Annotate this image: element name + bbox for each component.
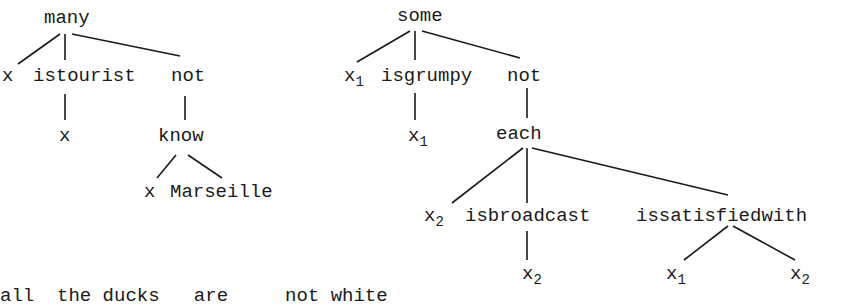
node-many: many <box>44 8 90 28</box>
node-issat-arg-x1: x1 <box>666 264 686 284</box>
node-issatisfiedwith: issatisfiedwith <box>636 206 807 226</box>
node-isgrumpy-arg: x1 <box>408 126 428 146</box>
node-isbroadcast-arg: x2 <box>522 264 542 284</box>
node-var-x2: x2 <box>424 206 444 226</box>
node-istourist: istourist <box>33 66 136 86</box>
node-var-x1: x1 <box>344 66 364 86</box>
node-issat-arg-x2: x2 <box>790 264 810 284</box>
node-some: some <box>397 6 443 26</box>
node-not: not <box>171 66 205 86</box>
node-know: know <box>158 126 204 146</box>
node-not: not <box>507 66 541 86</box>
node-isgrumpy: isgrumpy <box>381 66 472 86</box>
node-each: each <box>496 124 542 144</box>
node-istourist-arg: x <box>59 126 70 146</box>
node-know-arg-x: x <box>144 182 155 202</box>
sentence-caption: all the ducks are not white <box>0 285 388 305</box>
node-know-arg-marseille: Marseille <box>170 182 273 202</box>
node-isbroadcast: isbroadcast <box>465 206 590 226</box>
node-var-x: x <box>2 66 13 86</box>
